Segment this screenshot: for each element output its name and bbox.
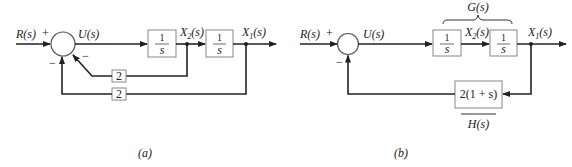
caption-a: (a) (138, 146, 152, 160)
plus-sign: + (326, 26, 333, 40)
g-brace (443, 15, 512, 24)
inner-feedback-arrow (73, 55, 112, 76)
summing-junction (338, 34, 359, 55)
svg-text:s: s (501, 42, 506, 56)
diagram-a: R(s) + U(s) 1 s X2(s) 1 s X1(s) 2 − (15, 25, 276, 160)
minus-sign: − (336, 55, 343, 69)
feedback-arrow (348, 56, 455, 95)
integrator-block-1: 1 s (148, 30, 176, 57)
input-label-r: R(s) (15, 27, 36, 41)
svg-text:s: s (445, 42, 450, 56)
minus-sign-inner: − (82, 49, 89, 63)
inner-gain-value: 2 (116, 69, 122, 83)
u-label: U(s) (363, 27, 384, 41)
g-label: G(s) (467, 0, 488, 14)
svg-text:1: 1 (160, 32, 165, 43)
plus-sign: + (42, 26, 49, 40)
minus-sign-outer: − (49, 56, 56, 70)
h-label: H(s) (467, 117, 489, 131)
integrator-block-1: 1 s (433, 30, 461, 56)
svg-text:1: 1 (217, 32, 222, 43)
svg-text:s: s (217, 43, 222, 57)
svg-text:s: s (160, 43, 165, 57)
x2-label: X2(s) (179, 25, 204, 41)
input-label-r: R(s) (299, 27, 320, 41)
x1-label: X1(s) (241, 25, 266, 41)
integrator-block-2: 1 s (490, 30, 517, 56)
summing-junction (51, 32, 75, 56)
feedback-block-value: 2(1 + s) (460, 87, 497, 101)
integrator-block-2: 1 s (206, 30, 233, 57)
block-diagrams: R(s) + U(s) 1 s X2(s) 1 s X1(s) 2 − (0, 0, 572, 167)
x2-label: X2(s) (464, 25, 489, 41)
u-label: U(s) (78, 27, 99, 41)
x1-label: X1(s) (527, 25, 552, 41)
caption-b: (b) (394, 146, 408, 160)
outer-gain-value: 2 (116, 87, 122, 101)
diagram-b: R(s) + U(s) G(s) 1 s X2(s) 1 s X1(s) 2(1… (299, 0, 566, 160)
